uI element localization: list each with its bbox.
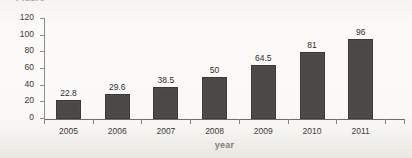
x-axis-category-label: 2006 [108, 126, 127, 137]
y-axis-spine [44, 18, 45, 119]
x-axis-tick [336, 119, 337, 124]
bar-value-label: 64.5 [255, 53, 272, 63]
x-axis-title: year [44, 140, 405, 150]
x-axis-category-label: 2009 [254, 126, 273, 137]
x-axis-tick [141, 119, 142, 124]
bar-value-label: 50 [210, 65, 219, 75]
x-axis-category-label: 2008 [205, 126, 224, 137]
x-axis-spine [44, 119, 405, 120]
bar-value-label: 96 [356, 27, 365, 37]
bar-2005: 22.8 [56, 100, 81, 119]
y-axis-tick-label: 80 [25, 45, 34, 56]
x-axis-tick [288, 119, 289, 124]
y-axis-tick: 100 [40, 35, 44, 36]
y-axis-tick: 120 [40, 18, 44, 19]
y-axis-tick-label: 100 [20, 29, 34, 40]
y-axis-tick: 20 [40, 101, 44, 102]
y-axis-tick-label: 40 [25, 79, 34, 90]
x-axis-tick [404, 119, 405, 124]
plot-area: 120 100 80 60 40 20 0 22.8 [44, 19, 405, 119]
x-axis-category-label: 2007 [156, 126, 175, 137]
bar-value-label: 38.5 [158, 75, 175, 85]
x-axis-tick [93, 119, 94, 124]
x-axis-tick [239, 119, 240, 124]
x-axis-tick [44, 119, 45, 124]
y-axis-tick-label: 120 [20, 12, 34, 23]
x-axis-tick [385, 119, 386, 124]
bar-2006: 29.6 [105, 94, 130, 119]
bar-value-label: 81 [307, 40, 316, 50]
x-axis-category-label: 2011 [352, 126, 370, 137]
x-axis-category-label: 2005 [59, 126, 78, 137]
bar-2008: 50 [202, 77, 227, 119]
bar-2009: 64.5 [251, 65, 276, 119]
bar-2010: 81 [300, 52, 325, 120]
y-axis-tick-label: 60 [25, 62, 34, 73]
bar-2011: 96 [348, 39, 373, 119]
y-axis-tick: 60 [40, 68, 44, 69]
y-axis-tick: 80 [40, 51, 44, 52]
bar-value-label: 22.8 [60, 88, 77, 98]
y-axis-tick: 40 [40, 85, 44, 86]
y-axis-tick-label: 20 [25, 95, 34, 106]
y-axis-tick-label: 0 [29, 112, 34, 123]
x-axis-tick [190, 119, 191, 124]
cropped-title-fragment: Figure [16, 0, 45, 1]
bar-2007: 38.5 [153, 87, 178, 119]
bar-value-label: 29.6 [109, 82, 126, 92]
x-axis-category-label: 2010 [303, 126, 322, 137]
chart-figure: Figure 120 100 80 60 40 20 0 [0, 0, 412, 158]
